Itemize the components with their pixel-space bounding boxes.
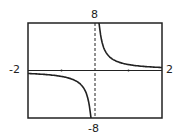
curve-left-branch: [28, 74, 91, 119]
plot-area: [0, 0, 179, 135]
x-tick-mark: [128, 70, 130, 72]
curve-right-branch: [99, 23, 162, 68]
x-tick-mark: [61, 70, 63, 72]
